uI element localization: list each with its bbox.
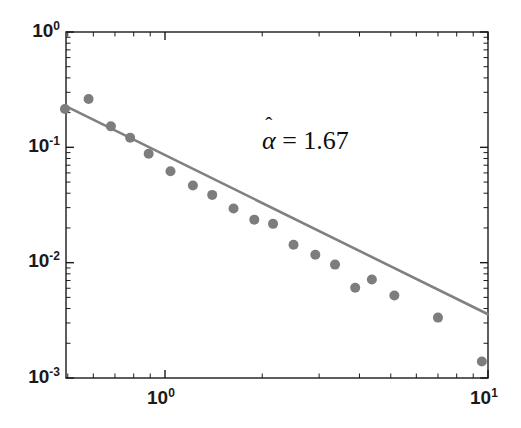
x-axis-ticks	[68, 32, 488, 378]
alpha-value: 1.67	[303, 126, 349, 155]
data-point	[330, 260, 340, 270]
y-tick-label-1: 10-1	[8, 136, 60, 155]
data-point	[268, 219, 278, 229]
y-tick-label-2: 10-2	[8, 251, 60, 270]
axes-frame	[66, 32, 488, 378]
data-point	[350, 283, 360, 293]
chart-figure: 100 10-1 10-2 10-3 100 101 ̂α = 1.67	[0, 0, 521, 428]
data-point	[310, 250, 320, 260]
data-point	[477, 357, 487, 367]
data-point	[249, 215, 259, 225]
data-point	[289, 240, 299, 250]
data-point	[207, 190, 217, 200]
x-tick-label-1: 101	[470, 388, 498, 407]
data-point	[84, 94, 94, 104]
data-point	[125, 133, 135, 143]
data-point	[60, 104, 70, 114]
data-point	[106, 121, 116, 131]
data-point	[188, 181, 198, 191]
data-point	[367, 275, 377, 285]
y-tick-label-3: 10-3	[8, 367, 60, 386]
data-point	[433, 313, 443, 323]
y-tick-label-0: 100	[8, 21, 60, 40]
x-tick-label-0: 100	[147, 388, 175, 407]
frame-rect	[66, 32, 488, 378]
data-point	[144, 149, 154, 159]
data-point	[166, 166, 176, 176]
equals-sign: =	[282, 126, 297, 155]
y-axis-ticks	[66, 32, 488, 378]
alpha-glyph: α	[262, 126, 276, 155]
data-point	[229, 203, 239, 213]
data-point	[389, 291, 399, 301]
plot-canvas	[0, 0, 521, 428]
alpha-estimate-annotation: ̂α = 1.67	[262, 128, 349, 154]
alpha-symbol: ̂α	[262, 128, 276, 154]
